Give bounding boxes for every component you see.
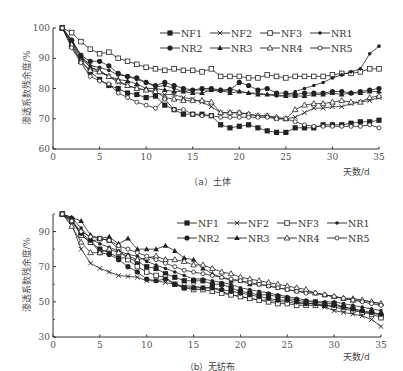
series-nf1-marker-filled-square [265, 128, 270, 133]
y-tick-label: 80 [39, 84, 51, 94]
series-nr1-marker-small-filled-circle [182, 274, 186, 278]
series-nr4-marker-open-triangle [78, 239, 84, 244]
series-nr3-marker-filled-triangle [172, 248, 178, 253]
series-nf1-marker-filled-square [125, 90, 130, 95]
series-nr2-marker-filled-circle [210, 285, 215, 290]
series-nr5-marker-small-open-circle [340, 124, 344, 128]
series-nr5-marker-small-open-circle [237, 115, 241, 119]
series-nr2-marker-filled-circle [116, 257, 121, 262]
series-nr5-marker-small-open-circle [323, 293, 327, 297]
y-tick-label: 60 [39, 144, 51, 154]
series-nf1-marker-filled-square [144, 264, 149, 269]
series-nr2-marker-filled-circle [265, 86, 270, 91]
series-nr2-marker-filled-circle [144, 80, 149, 85]
series-nf3-marker-open-square [125, 59, 130, 64]
legend-item-nr4: NR4 [260, 43, 303, 54]
legend-item-nf1: NF1 [160, 28, 202, 39]
legend-nr3-marker-filled-triangle [234, 235, 240, 240]
x-tick-label: 0 [50, 340, 56, 350]
y-tick-label: 70 [39, 114, 51, 124]
chart-a-x-axis-label: 天数/d [343, 166, 370, 177]
series-nr5-marker-small-open-circle [173, 265, 177, 269]
series-nr5-marker-small-open-circle [351, 298, 355, 302]
x-tick-label: 20 [234, 152, 246, 162]
series-nf1-marker-filled-square [218, 122, 223, 127]
series-nr5-marker-small-open-circle [293, 120, 297, 124]
series-nf2-marker-x [379, 324, 384, 329]
legend-item-nf1: NF1 [177, 218, 219, 229]
series-nr2-marker-filled-circle [275, 298, 280, 303]
series-nr1-marker-small-filled-circle [98, 242, 102, 246]
series-nf2-marker-x [79, 247, 84, 252]
series-nr5-marker-small-open-circle [60, 26, 64, 30]
chart-b-nonwoven: 30507090 05101520253035 渗透系数残余度/% 天数/d （… [21, 211, 387, 371]
series-nr1-marker-small-filled-circle [368, 52, 372, 56]
series-nr1-marker-small-filled-circle [349, 70, 353, 74]
series-nr5-marker-small-open-circle [220, 275, 224, 279]
y-tick-label: 30 [39, 332, 51, 342]
legend-item-nr3: NR3 [227, 233, 270, 244]
series-nr1-marker-small-filled-circle [220, 281, 224, 285]
series-nr5-marker-small-open-circle [145, 254, 149, 258]
series-nr2-marker-filled-circle [322, 303, 327, 308]
series-nf3-marker-open-square [116, 56, 121, 61]
series-nr2-marker-filled-circle [135, 269, 140, 274]
series-nr5-marker-small-open-circle [219, 115, 223, 119]
series-nr5-marker-small-open-circle [342, 296, 346, 300]
legend-label: NR1 [348, 218, 370, 229]
legend-nr5-marker-small-open-circle [318, 46, 322, 50]
chart-b-y-axis-label: 渗透系数残余度/% [21, 237, 32, 312]
series-nr5-marker-small-open-circle [302, 123, 306, 127]
legend-label: NR2 [198, 233, 220, 244]
series-nr2-marker-filled-circle [200, 285, 205, 290]
x-tick-label: 35 [375, 340, 387, 350]
legend-label: NR4 [298, 233, 320, 244]
chart-a-caption: （a）土体 [189, 176, 231, 187]
series-nf3-marker-open-square [228, 74, 233, 79]
series-nr2-marker-filled-circle [191, 285, 196, 290]
series-nr5-marker-small-open-circle [247, 115, 251, 119]
legend-label: NR5 [348, 233, 370, 244]
series-nr1-marker-small-filled-circle [377, 44, 381, 48]
series-nr5-marker-small-open-circle [256, 115, 260, 119]
series-nr5-marker-small-open-circle [248, 281, 252, 285]
x-tick-label: 5 [97, 340, 103, 350]
series-nr1-marker-small-filled-circle [303, 87, 307, 91]
series-nr5-marker-small-open-circle [377, 126, 381, 130]
series-nf1-marker-filled-square [376, 118, 381, 123]
legend-label: NR5 [331, 43, 353, 54]
series-nr2-marker-filled-circle [219, 287, 224, 292]
series-nf1-marker-filled-square [255, 125, 260, 130]
series-nr4-marker-open-triangle [339, 98, 345, 103]
series-nr5-marker-small-open-circle [379, 303, 383, 307]
x-tick-label: 30 [328, 340, 340, 350]
series-nr5-marker-small-open-circle [370, 302, 374, 306]
legend-label: NF1 [198, 218, 219, 229]
y-tick-label: 90 [39, 227, 51, 237]
series-nf1-marker-filled-square [162, 103, 167, 108]
y-tick-label: 70 [39, 262, 51, 272]
series-nr2-marker-filled-circle [313, 301, 318, 306]
series-nr2-marker-filled-circle [153, 278, 158, 283]
legend-item-nf3: NF3 [260, 28, 302, 39]
chart-a-soil: 60708090100 05101520253035 渗透系数残余度/% 天数/… [21, 23, 385, 187]
series-nr2-marker-filled-circle [228, 289, 233, 294]
series-nr1-marker-small-filled-circle [229, 282, 233, 286]
y-tick-label: 100 [33, 23, 50, 33]
series-nr5-marker-small-open-circle [70, 46, 74, 50]
series-nr4-marker-open-triangle [172, 257, 178, 262]
legend-label: NF3 [298, 218, 319, 229]
series-nr2-marker-filled-circle [171, 83, 176, 88]
series-nf3-marker-open-square [153, 67, 158, 72]
series-nr2-marker-filled-circle [172, 282, 177, 287]
series-nr1-marker-small-filled-circle [239, 286, 243, 290]
series-nf1-marker-filled-square [144, 95, 149, 100]
legend-nr3-marker-filled-triangle [217, 45, 223, 50]
series-nr3-marker-filled-triangle [163, 243, 169, 248]
series-nf1-marker-filled-square [237, 124, 242, 129]
series-nf3-marker-open-square [162, 68, 167, 73]
legend-item-nf3: NF3 [277, 218, 319, 229]
series-nr2-marker-filled-circle [106, 63, 111, 68]
series-nr2-marker-filled-circle [237, 80, 242, 85]
series-nr5-marker-small-open-circle [201, 272, 205, 276]
